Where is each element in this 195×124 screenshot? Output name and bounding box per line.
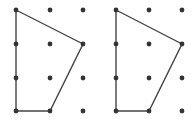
grid-dot	[14, 109, 19, 114]
grid-dot	[14, 76, 19, 81]
dot-grid-diagram	[0, 0, 195, 124]
grid-dot	[147, 76, 152, 81]
grid-dot	[14, 42, 19, 47]
grid-dot	[48, 42, 53, 47]
grid-dot	[147, 8, 152, 13]
grid-dot	[114, 109, 119, 114]
grid-dot	[147, 42, 152, 47]
grid-dot	[180, 76, 185, 81]
grid-dot	[14, 8, 19, 13]
grid-dot	[81, 109, 86, 114]
grid-dot	[81, 76, 86, 81]
quadrilateral-shape	[116, 10, 182, 111]
grid-dot	[48, 109, 53, 114]
grid-dot	[114, 42, 119, 47]
grid-dot	[114, 76, 119, 81]
grid-dot	[147, 109, 152, 114]
grid-dot	[180, 8, 185, 13]
quadrilateral-shape	[16, 10, 83, 111]
grid-dot	[48, 8, 53, 13]
grid-dot	[48, 76, 53, 81]
left-panel	[14, 8, 86, 114]
grid-dot	[81, 42, 86, 47]
grid-dot	[114, 8, 119, 13]
grid-dot	[81, 8, 86, 13]
grid-dot	[180, 42, 185, 47]
right-panel	[114, 8, 185, 114]
grid-dot	[180, 109, 185, 114]
